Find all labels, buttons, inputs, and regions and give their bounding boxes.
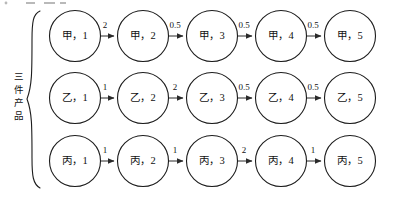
edge-weight: 0.5 xyxy=(307,20,319,30)
edge-jia-3-4: 0.5 xyxy=(238,20,252,36)
node-label: 甲，5 xyxy=(337,30,362,41)
node-label: 甲，2 xyxy=(130,30,155,41)
side-label-char-0: 三 xyxy=(14,72,24,82)
node-label: 丙，2 xyxy=(130,155,155,166)
node-label: 丙，3 xyxy=(199,155,224,166)
node-yi-1[interactable]: 乙，1 xyxy=(50,73,101,124)
edge-weight: 1 xyxy=(311,145,316,155)
node-label: 甲，4 xyxy=(268,30,294,41)
product-row-jia: 甲，1 甲，2 甲，3 甲，4 甲，5 2 xyxy=(50,11,376,62)
edge-yi-2-3: 2 xyxy=(169,82,183,98)
edge-bing-4-5: 1 xyxy=(307,145,321,161)
node-jia-4[interactable]: 甲，4 xyxy=(256,11,307,62)
edge-yi-3-4: 0.5 xyxy=(238,82,252,98)
product-row-yi: 乙，1 乙，2 乙，3 乙，4 乙，5 1 xyxy=(50,73,376,124)
edge-weight: 2 xyxy=(173,82,178,92)
node-yi-3[interactable]: 乙，3 xyxy=(187,73,238,124)
product-stage-diagram: 三 件 产 品 甲，1 甲，2 甲，3 甲，4 xyxy=(0,0,406,199)
edge-weight: 0.5 xyxy=(238,82,250,92)
node-label: 甲，3 xyxy=(199,30,224,41)
edge-bing-1-2: 1 xyxy=(101,145,114,161)
node-label: 乙，1 xyxy=(62,92,87,103)
edge-bing-2-3: 1 xyxy=(169,145,183,161)
node-bing-1[interactable]: 丙，1 xyxy=(50,136,101,187)
edge-yi-4-5: 0.5 xyxy=(307,82,321,98)
side-label-char-3: 品 xyxy=(14,111,24,121)
group-brace xyxy=(27,11,40,188)
node-bing-3[interactable]: 丙，3 xyxy=(187,136,238,187)
scan-artifacts xyxy=(5,2,66,5)
edge-bing-3-4: 2 xyxy=(238,145,252,161)
node-label: 乙，5 xyxy=(337,92,362,103)
edge-weight: 0.5 xyxy=(307,82,319,92)
node-yi-4[interactable]: 乙，4 xyxy=(256,73,307,124)
node-jia-5[interactable]: 甲，5 xyxy=(325,11,376,62)
node-bing-2[interactable]: 丙，2 xyxy=(118,136,169,187)
edge-jia-4-5: 0.5 xyxy=(307,20,321,36)
edge-weight: 2 xyxy=(103,20,108,30)
product-row-bing: 丙，1 丙，2 丙，3 丙，4 丙，5 1 xyxy=(50,136,376,187)
node-label: 丙，5 xyxy=(337,155,362,166)
node-jia-2[interactable]: 甲，2 xyxy=(118,11,169,62)
node-label: 乙，2 xyxy=(130,92,155,103)
edge-weight: 0.5 xyxy=(169,20,181,30)
edge-jia-2-3: 0.5 xyxy=(169,20,183,36)
edge-weight: 1 xyxy=(103,145,108,155)
edge-weight: 1 xyxy=(173,145,178,155)
side-label: 三 件 产 品 xyxy=(14,72,24,121)
node-bing-5[interactable]: 丙，5 xyxy=(325,136,376,187)
node-label: 乙，3 xyxy=(199,92,224,103)
node-label: 丙，4 xyxy=(268,155,294,166)
side-label-char-2: 产 xyxy=(14,97,24,108)
node-jia-1[interactable]: 甲，1 xyxy=(50,11,101,62)
node-label: 乙，4 xyxy=(268,92,294,103)
node-yi-2[interactable]: 乙，2 xyxy=(118,73,169,124)
edge-weight: 0.5 xyxy=(238,20,250,30)
side-label-char-1: 件 xyxy=(14,84,24,95)
edge-weight: 1 xyxy=(103,82,108,92)
edge-yi-1-2: 1 xyxy=(101,82,114,98)
edge-jia-1-2: 2 xyxy=(101,20,114,36)
diagram-canvas: 三 件 产 品 甲，1 甲，2 甲，3 甲，4 xyxy=(0,0,406,199)
node-bing-4[interactable]: 丙，4 xyxy=(256,136,307,187)
node-label: 丙，1 xyxy=(62,155,87,166)
node-jia-3[interactable]: 甲，3 xyxy=(187,11,238,62)
edge-weight: 2 xyxy=(242,145,247,155)
node-yi-5[interactable]: 乙，5 xyxy=(325,73,376,124)
node-label: 甲，1 xyxy=(62,30,87,41)
